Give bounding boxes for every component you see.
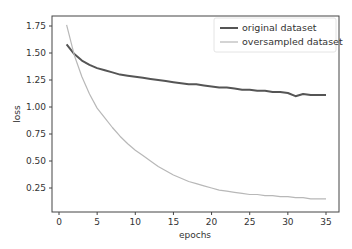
x-tick-label: 25 — [244, 217, 255, 227]
legend-label-oversampled: oversampled dataset — [242, 36, 343, 47]
x-tick-label: 15 — [168, 217, 179, 227]
x-tick-label: 30 — [282, 217, 294, 227]
x-tick-label: 10 — [130, 217, 142, 227]
y-axis: 0.250.500.751.001.251.501.75 — [26, 21, 52, 193]
x-tick-label: 35 — [320, 217, 331, 227]
y-tick-label: 0.25 — [26, 183, 46, 193]
y-tick-label: 0.50 — [26, 156, 46, 166]
x-tick-label: 20 — [206, 217, 218, 227]
x-axis: 05101520253035 — [56, 212, 332, 227]
y-tick-label: 1.25 — [26, 75, 46, 85]
y-tick-label: 0.75 — [26, 129, 46, 139]
x-axis-label: epochs — [179, 230, 211, 240]
y-tick-label: 1.75 — [26, 21, 46, 31]
legend-label-original: original dataset — [242, 22, 317, 33]
y-tick-label: 1.50 — [26, 48, 46, 58]
y-axis-label: loss — [12, 105, 22, 123]
loss-chart: 0.250.500.751.001.251.501.75 05101520253… — [0, 0, 352, 249]
legend: original dataset oversampled dataset — [214, 18, 343, 52]
x-tick-label: 0 — [56, 217, 62, 227]
x-tick-label: 5 — [94, 217, 100, 227]
y-tick-label: 1.00 — [26, 102, 46, 112]
